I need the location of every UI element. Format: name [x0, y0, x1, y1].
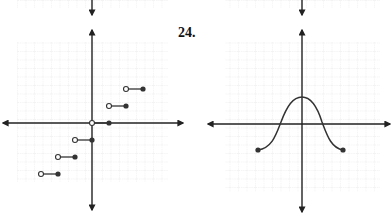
closed-endpoint: [89, 137, 94, 142]
closed-endpoint-right: [340, 147, 345, 152]
open-endpoint: [56, 155, 61, 160]
open-endpoint: [39, 172, 44, 177]
closed-endpoint: [123, 103, 128, 108]
closed-endpoint: [72, 154, 77, 159]
graphs-canvas: [0, 0, 392, 220]
closed-endpoint: [140, 86, 145, 91]
bell-curve-graph: [208, 30, 390, 212]
previous-graph-right-remnant: [225, 0, 380, 15]
previous-graph-left-remnant: [17, 0, 168, 15]
closed-endpoint-left: [255, 147, 260, 152]
step-function-graph: [3, 30, 183, 210]
open-endpoint: [90, 121, 95, 126]
open-endpoint: [73, 138, 78, 143]
closed-endpoint: [106, 120, 111, 125]
open-endpoint: [107, 104, 112, 109]
open-endpoint: [124, 87, 129, 92]
closed-endpoint: [55, 171, 60, 176]
